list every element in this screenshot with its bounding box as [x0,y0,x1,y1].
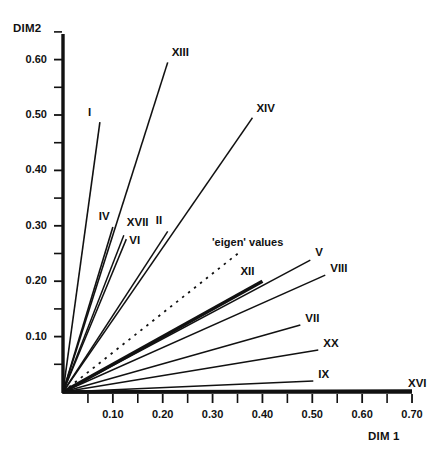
y-tick-label-3: 0.40 [7,163,47,175]
series-label-xii: XII [240,265,254,277]
y-tick-label-4: 0.50 [7,108,47,120]
series-label-xiv: XIV [256,102,275,114]
series-label-i: I [88,106,91,118]
y-axis-title: DIM2 [13,22,41,34]
chart-figure: DIM2 DIM 1 0.100.200.300.400.500.60 0.10… [0,0,445,465]
x-tick-label-4: 0.50 [290,408,334,420]
vector-line-xiv [63,118,252,392]
series-label-v: V [315,246,323,258]
x-tick-label-0: 0.10 [91,408,135,420]
x-tick-label-3: 0.40 [240,408,284,420]
series-label-xx: XX [323,337,338,349]
series-label-iv: IV [99,210,110,222]
y-tick-label-0: 0.10 [7,330,47,342]
annotation-label--eigen-values: 'eigen' values [212,236,283,248]
series-label-vii: VII [305,312,319,324]
series-label-ix: IX [318,368,329,380]
vector-line-vi [63,239,126,392]
plot-area [0,0,445,465]
series-label-viii: VIII [330,262,347,274]
series-label-vi: VI [129,234,140,246]
series-label-xvii: XVII [127,216,149,228]
series-label-ii: II [156,214,162,226]
x-tick-label-6: 0.70 [390,408,434,420]
vector-line-i [63,122,100,392]
series-label-xiii: XIII [172,46,189,58]
x-axis-title: DIM 1 [368,430,400,442]
y-tick-label-2: 0.30 [7,219,47,231]
x-tick-label-5: 0.60 [340,408,384,420]
y-tick-label-5: 0.60 [7,53,47,65]
vector-line-xvi [63,391,412,392]
y-tick-label-1: 0.20 [7,274,47,286]
x-tick-label-1: 0.20 [141,408,185,420]
x-tick-label-2: 0.30 [191,408,235,420]
series-label-xvi: XVI [408,377,427,389]
